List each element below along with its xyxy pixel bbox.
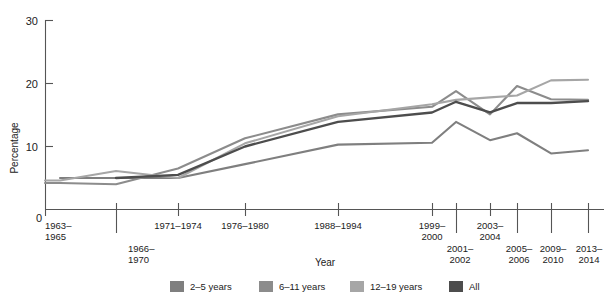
legend-swatch-1	[259, 281, 273, 292]
x-tick-label-1966-1970-line1: 1966–	[128, 243, 155, 254]
x-tick-label-1999-2000-line1: 1999–	[419, 220, 446, 231]
y-axis-title: Percentage	[9, 122, 20, 174]
x-tick-label-2005-2006-line1: 2005–	[506, 243, 533, 254]
legend: 2–5 years 6–11 years 12–19 years All	[170, 281, 480, 292]
x-tick-label-1976-1980: 1976–1980	[221, 220, 269, 231]
legend-swatch-2	[350, 281, 364, 292]
series-group	[45, 80, 588, 185]
legend-label-2: 12–19 years	[370, 281, 423, 292]
x-tick-label-2003-2004-line1: 2003–	[477, 220, 504, 231]
x-tick-label-2013-2014-line2: 2014	[578, 254, 599, 265]
x-tick-label-1988-1994: 1988–1994	[314, 220, 362, 231]
x-tick-label-2009-2010-line2: 2010	[542, 254, 563, 265]
x-tick-label-1999-2000-line2: 2000	[421, 231, 442, 242]
x-tick-label-1966-1970-line2: 1970	[128, 254, 149, 265]
x-tick-label-1963-1965-line2: 1965	[45, 231, 66, 242]
x-tick-label-2003-2004-line2: 2004	[479, 231, 500, 242]
legend-label-0: 2–5 years	[190, 281, 232, 292]
chart-container: 30 20 10 0 Percentage 1963– 1965 1966– 1…	[0, 0, 606, 300]
legend-swatch-3	[449, 281, 463, 292]
legend-label-3: All	[469, 281, 480, 292]
x-tick-label-2001-2002-line2: 2002	[449, 254, 470, 265]
y-tick-label-10: 10	[26, 141, 38, 153]
x-axis-title: Year	[315, 257, 336, 268]
y-tick-label-20: 20	[26, 78, 38, 90]
x-tick-label-2001-2002-line1: 2001–	[447, 243, 474, 254]
series-line-12-19-years	[45, 80, 588, 181]
y-tick-label-0: 0	[36, 212, 42, 224]
x-tick-label-1963-1965-line1: 1963–	[45, 220, 72, 231]
x-tick-label-2009-2010-line1: 2009–	[540, 243, 567, 254]
legend-swatch-0	[170, 281, 184, 292]
line-chart-svg: 30 20 10 0 Percentage 1963– 1965 1966– 1…	[0, 0, 606, 300]
legend-label-1: 6–11 years	[279, 281, 326, 292]
x-tick-label-2013-2014-line1: 2013–	[576, 243, 603, 254]
series-line-2-5-years	[60, 122, 588, 178]
x-tick-label-1971-1974: 1971–1974	[154, 220, 202, 231]
y-tick-label-30: 30	[26, 15, 38, 27]
x-tick-label-2005-2006-line2: 2006	[508, 254, 529, 265]
